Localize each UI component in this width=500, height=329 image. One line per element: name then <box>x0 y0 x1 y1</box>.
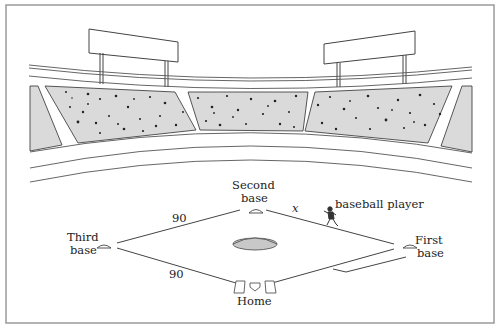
label-second-base-line1: Second <box>232 178 275 192</box>
label-third-base-line1: Third <box>67 230 99 244</box>
label-variable-x: x <box>292 201 299 215</box>
label-first-base-line2: base <box>417 246 444 260</box>
stand-section-center <box>188 92 308 131</box>
diagram-canvas: Second base Third base First base Home b… <box>0 0 500 329</box>
home-plate-area <box>234 281 276 293</box>
label-distance-upper: 90 <box>172 211 187 225</box>
batter-box-right <box>265 281 276 293</box>
label-home: Home <box>237 294 272 308</box>
label-third-base-line2: base <box>70 243 97 257</box>
label-second-base-line2: base <box>241 191 268 205</box>
label-first-base-line1: First <box>415 233 443 247</box>
label-distance-lower: 90 <box>169 267 184 281</box>
label-baseball-player: baseball player <box>335 197 424 211</box>
batter-box-left <box>234 281 245 293</box>
border-frame <box>6 5 494 323</box>
